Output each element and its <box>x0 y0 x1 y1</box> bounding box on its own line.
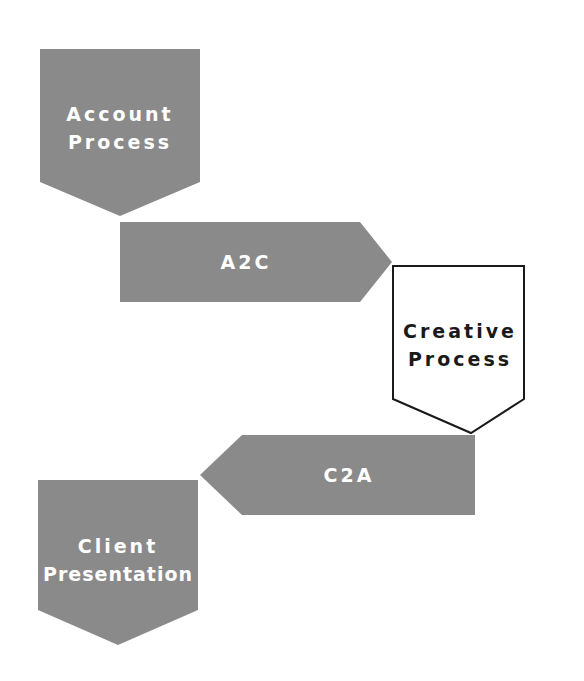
client-presentation-line2: Presentation <box>43 563 193 585</box>
a2c-arrow: A2C <box>120 222 392 302</box>
c2a-arrow: C2A <box>200 435 475 515</box>
client-presentation-shape: Client Presentation <box>38 480 198 645</box>
a2c-label: A2C <box>221 251 272 273</box>
creative-process-shape: Creative Process <box>393 266 524 433</box>
account-process-line1: Account <box>66 103 173 125</box>
account-process-line2: Process <box>68 131 172 153</box>
c2a-label: C2A <box>324 464 375 486</box>
process-flow-diagram: Account Process A2C Creative Process C2A… <box>0 0 584 681</box>
creative-process-line2: Process <box>408 348 512 370</box>
client-presentation-line1: Client <box>78 535 158 557</box>
account-process-shape: Account Process <box>40 49 200 216</box>
creative-process-line1: Creative <box>403 320 517 342</box>
